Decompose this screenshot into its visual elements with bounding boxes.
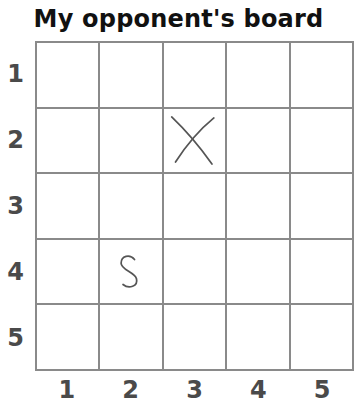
cell-r2-c4[interactable] bbox=[227, 109, 290, 175]
col-label-3: 3 bbox=[163, 371, 227, 408]
cell-r2-c3[interactable] bbox=[164, 109, 227, 175]
row-label-4: 4 bbox=[0, 239, 35, 305]
row-label-5: 5 bbox=[0, 305, 35, 371]
cell-r1-c3[interactable] bbox=[164, 43, 227, 109]
cell-r2-c5[interactable] bbox=[291, 109, 354, 175]
cell-r3-c1[interactable] bbox=[37, 174, 100, 240]
cell-r3-c5[interactable] bbox=[291, 174, 354, 240]
s-mark-icon bbox=[100, 240, 161, 304]
cell-r1-c1[interactable] bbox=[37, 43, 100, 109]
row-label-1: 1 bbox=[0, 41, 35, 107]
cell-r2-c1[interactable] bbox=[37, 109, 100, 175]
cell-r4-c4[interactable] bbox=[227, 240, 290, 306]
cell-r5-c3[interactable] bbox=[164, 305, 227, 371]
column-labels: 1 2 3 4 5 bbox=[35, 371, 354, 408]
col-label-5: 5 bbox=[290, 371, 354, 408]
cell-r1-c5[interactable] bbox=[291, 43, 354, 109]
cell-r5-c5[interactable] bbox=[291, 305, 354, 371]
board-title: My opponent's board bbox=[0, 2, 357, 36]
cell-r1-c2[interactable] bbox=[100, 43, 163, 109]
col-label-4: 4 bbox=[226, 371, 290, 408]
cell-r4-c3[interactable] bbox=[164, 240, 227, 306]
cell-r4-c1[interactable] bbox=[37, 240, 100, 306]
row-labels: 1 2 3 4 5 bbox=[0, 41, 35, 371]
cell-r5-c2[interactable] bbox=[100, 305, 163, 371]
cell-r3-c4[interactable] bbox=[227, 174, 290, 240]
col-label-1: 1 bbox=[35, 371, 99, 408]
cell-r5-c4[interactable] bbox=[227, 305, 290, 371]
cell-r4-c2[interactable] bbox=[100, 240, 163, 306]
cell-r2-c2[interactable] bbox=[100, 109, 163, 175]
cell-r5-c1[interactable] bbox=[37, 305, 100, 371]
cell-r3-c2[interactable] bbox=[100, 174, 163, 240]
cell-r4-c5[interactable] bbox=[291, 240, 354, 306]
cell-r1-c4[interactable] bbox=[227, 43, 290, 109]
x-mark-icon bbox=[164, 109, 225, 173]
cell-r3-c3[interactable] bbox=[164, 174, 227, 240]
row-label-2: 2 bbox=[0, 107, 35, 173]
col-label-2: 2 bbox=[99, 371, 163, 408]
row-label-3: 3 bbox=[0, 173, 35, 239]
opponent-board-grid bbox=[35, 41, 354, 371]
